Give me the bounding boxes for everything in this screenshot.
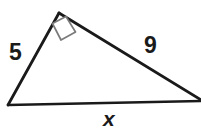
side-label-left-leg: 5	[9, 41, 22, 64]
triangle-drawing	[0, 0, 201, 128]
triangle-side-base	[8, 101, 201, 105]
geometry-figure: 5 9 x	[0, 0, 201, 128]
triangle-side-hypotenuse	[59, 13, 201, 101]
side-label-hypotenuse: 9	[144, 34, 157, 57]
side-label-base: x	[103, 108, 115, 128]
